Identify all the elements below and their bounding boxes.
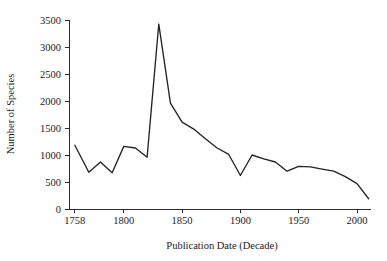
y-axis-ticks: 0500100015002000250030003500 <box>40 15 69 215</box>
y-tick-label: 500 <box>45 177 61 188</box>
x-tick-label: 1758 <box>64 215 85 226</box>
x-tick-label: 1900 <box>230 215 251 226</box>
y-tick-label: 2500 <box>40 69 61 80</box>
y-tick-label: 3500 <box>40 15 61 26</box>
chart-figure: 0500100015002000250030003500 17581800185… <box>0 0 387 261</box>
line-chart: 0500100015002000250030003500 17581800185… <box>0 0 387 261</box>
x-tick-label: 2000 <box>347 215 368 226</box>
y-tick-label: 1000 <box>40 150 61 161</box>
y-tick-label: 2000 <box>40 96 61 107</box>
x-axis-label: Publication Date (Decade) <box>166 240 278 252</box>
x-axis-ticks: 175818001850190019502000 <box>64 209 367 226</box>
y-tick-label: 3000 <box>40 42 61 53</box>
data-series-line <box>75 24 369 199</box>
x-tick-label: 1800 <box>113 215 134 226</box>
x-tick-label: 1850 <box>172 215 193 226</box>
y-tick-label: 0 <box>56 204 61 215</box>
y-axis-label: Number of Species <box>5 74 16 154</box>
y-tick-label: 1500 <box>40 123 61 134</box>
x-tick-label: 1950 <box>288 215 309 226</box>
